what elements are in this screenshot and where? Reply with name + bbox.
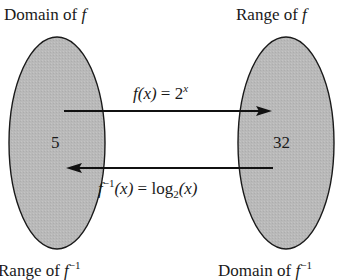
label-text: Range of	[236, 5, 302, 24]
inverse-superscript: −1	[103, 177, 115, 189]
equation-rhs: = log	[133, 179, 173, 198]
inverse-function-label: f−1(x) = log2(x)	[98, 180, 198, 197]
exponent: x	[183, 82, 188, 94]
inverse-superscript: −1	[300, 259, 312, 271]
range-of-f-label: Range of f	[236, 6, 307, 23]
range-element: 32	[273, 134, 290, 151]
function-argument: (x)	[138, 84, 157, 103]
label-text: Domain of	[218, 261, 295, 280]
forward-function-label: f(x) = 2x	[133, 85, 188, 102]
function-argument: (x)	[114, 179, 133, 198]
domain-of-f-label: Domain of f	[4, 6, 86, 23]
range-of-f-inverse-label: Range of f−1	[0, 262, 81, 279]
domain-element: 5	[51, 134, 60, 151]
inverse-superscript: −1	[69, 259, 81, 271]
domain-of-f-inverse-label: Domain of f−1	[218, 262, 312, 279]
function-symbol: f	[81, 5, 86, 24]
function-symbol: f	[302, 5, 307, 24]
equation-rhs: = 2	[157, 84, 184, 103]
label-text: Range of	[0, 261, 64, 280]
log-argument: (x)	[179, 179, 198, 198]
label-text: Domain of	[4, 5, 81, 24]
log-base: 2	[173, 188, 179, 200]
